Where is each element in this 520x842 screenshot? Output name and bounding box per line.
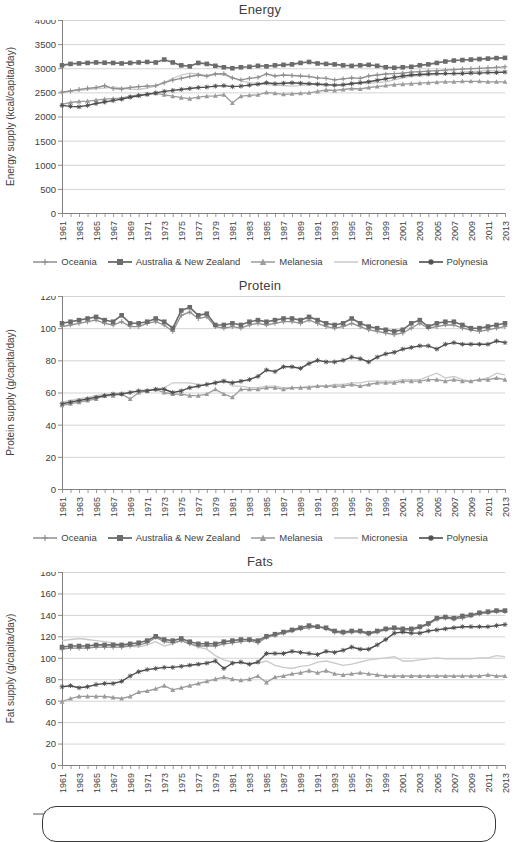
data-point-marker bbox=[179, 87, 184, 92]
data-point-marker bbox=[281, 81, 286, 86]
x-axis-tick-label: 1993 bbox=[330, 773, 340, 793]
data-point-marker bbox=[128, 321, 133, 326]
y-axis-tick-label: 20 bbox=[45, 452, 56, 463]
data-point-marker bbox=[358, 76, 363, 81]
data-point-marker bbox=[145, 638, 150, 643]
legend-label: Polynesia bbox=[447, 532, 488, 543]
legend-item-oceania[interactable]: Oceania bbox=[32, 256, 96, 267]
data-point-marker bbox=[349, 629, 354, 634]
data-point-marker bbox=[307, 668, 312, 673]
data-point-marker bbox=[298, 61, 303, 66]
data-point-marker bbox=[324, 62, 329, 67]
legend-label: Australia & New Zealand bbox=[136, 532, 241, 543]
series-melanesia bbox=[60, 668, 508, 704]
data-point-marker bbox=[341, 630, 346, 635]
legend-item-australia-new-zealand[interactable]: Australia & New Zealand bbox=[107, 532, 241, 543]
x-axis-tick-label: 1967 bbox=[109, 497, 119, 517]
legend-item-polynesia[interactable]: Polynesia bbox=[418, 256, 488, 267]
data-point-marker bbox=[85, 61, 90, 66]
data-point-marker bbox=[307, 623, 312, 628]
data-point-marker bbox=[409, 65, 414, 70]
legend-label: Melanesia bbox=[279, 256, 322, 267]
data-point-marker bbox=[443, 71, 448, 76]
data-point-marker bbox=[239, 65, 244, 70]
y-axis-tick-label: 2500 bbox=[35, 87, 56, 98]
data-point-marker bbox=[264, 319, 269, 324]
y-axis-tick-label: 4000 bbox=[35, 20, 56, 26]
data-point-marker bbox=[392, 75, 397, 80]
x-axis-tick-label: 1983 bbox=[245, 497, 255, 517]
data-point-marker bbox=[145, 92, 150, 97]
data-point-marker bbox=[94, 60, 99, 65]
y-axis-tick-label: 60 bbox=[45, 387, 56, 398]
data-point-marker bbox=[375, 73, 380, 78]
data-point-marker bbox=[213, 323, 218, 328]
data-point-marker bbox=[205, 62, 210, 67]
x-axis-tick-label: 1961 bbox=[58, 773, 68, 793]
data-point-marker bbox=[94, 395, 99, 400]
data-point-marker bbox=[264, 72, 269, 77]
data-point-marker bbox=[477, 342, 482, 347]
data-point-marker bbox=[375, 629, 380, 634]
data-point-marker bbox=[418, 318, 423, 323]
legend-item-melanesia[interactable]: Melanesia bbox=[250, 532, 322, 543]
data-point-marker bbox=[145, 319, 150, 324]
data-point-marker bbox=[213, 380, 218, 385]
x-axis-tick-label: 1983 bbox=[245, 773, 255, 793]
data-point-marker bbox=[358, 629, 363, 634]
data-point-marker bbox=[273, 318, 278, 323]
x-axis-tick-label: 1969 bbox=[126, 221, 136, 241]
data-point-marker bbox=[213, 642, 218, 647]
data-point-marker bbox=[486, 70, 491, 75]
data-point-marker bbox=[196, 384, 201, 389]
data-point-marker bbox=[247, 65, 252, 70]
chart-title: Protein bbox=[0, 276, 520, 296]
data-point-marker bbox=[94, 643, 99, 648]
data-point-marker bbox=[102, 393, 107, 398]
data-point-marker bbox=[281, 63, 286, 68]
x-axis-tick-label: 1965 bbox=[92, 773, 102, 793]
data-point-marker bbox=[264, 651, 269, 656]
data-point-marker bbox=[434, 347, 439, 352]
legend-item-oceania[interactable]: Oceania bbox=[32, 532, 96, 543]
data-point-marker bbox=[256, 318, 261, 323]
x-axis-tick-label: 2003 bbox=[416, 773, 426, 793]
data-point-marker bbox=[332, 62, 337, 67]
legend-marker-icon bbox=[32, 257, 58, 267]
x-axis-tick-label: 1977 bbox=[194, 773, 204, 793]
data-point-marker bbox=[102, 60, 107, 65]
legend-item-australia-new-zealand[interactable]: Australia & New Zealand bbox=[107, 256, 241, 267]
data-point-marker bbox=[111, 392, 116, 397]
legend-item-polynesia[interactable]: Polynesia bbox=[418, 532, 488, 543]
legend-item-micronesia[interactable]: Micronesia bbox=[333, 532, 408, 543]
data-point-marker bbox=[162, 57, 167, 62]
x-axis-tick-label: 1985 bbox=[262, 773, 272, 793]
data-point-marker bbox=[179, 308, 184, 313]
x-axis-tick-label: 1979 bbox=[211, 773, 221, 793]
data-point-marker bbox=[324, 649, 329, 654]
data-point-marker bbox=[426, 62, 431, 67]
data-point-marker bbox=[298, 625, 303, 630]
data-point-marker bbox=[315, 358, 320, 363]
data-point-marker bbox=[77, 398, 82, 403]
x-axis-tick-label: 2009 bbox=[467, 497, 477, 517]
legend-item-micronesia[interactable]: Micronesia bbox=[333, 256, 408, 267]
x-axis-tick-label: 1993 bbox=[330, 497, 340, 517]
chart-legend: OceaniaAustralia & New ZealandMelanesiaM… bbox=[0, 532, 520, 543]
data-point-marker bbox=[111, 681, 116, 686]
data-point-marker bbox=[128, 61, 133, 66]
data-point-marker bbox=[187, 663, 192, 668]
data-point-marker bbox=[136, 388, 141, 393]
data-point-marker bbox=[400, 74, 405, 79]
legend-item-melanesia[interactable]: Melanesia bbox=[250, 256, 322, 267]
data-point-marker bbox=[366, 74, 371, 79]
data-point-marker bbox=[281, 651, 286, 656]
data-point-marker bbox=[469, 57, 474, 62]
x-axis-tick-label: 2001 bbox=[398, 221, 408, 241]
data-point-marker bbox=[469, 66, 474, 71]
y-axis-tick-label: 3000 bbox=[35, 63, 56, 74]
data-point-marker bbox=[341, 358, 346, 363]
data-point-marker bbox=[264, 80, 269, 85]
data-point-marker bbox=[136, 60, 141, 65]
